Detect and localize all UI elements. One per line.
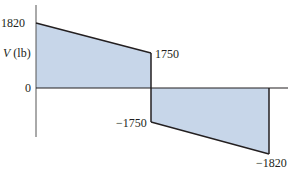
- label-neg-1750: −1750: [116, 117, 147, 129]
- y-tick-0: 0: [25, 82, 31, 94]
- y-tick-1820: 1820: [1, 17, 25, 29]
- y-axis-unit: (lb): [10, 46, 30, 60]
- shear-diagram: [0, 0, 290, 171]
- y-axis-label: V (lb): [3, 47, 31, 59]
- negative-shear-area: [151, 88, 269, 154]
- positive-shear-area: [36, 23, 151, 88]
- label-1750: 1750: [155, 48, 179, 60]
- label-neg-1820: −1820: [256, 157, 287, 169]
